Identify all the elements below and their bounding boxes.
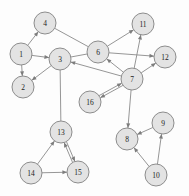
- arrowhead-14-to-13: [50, 141, 54, 146]
- arrowhead-7-to-12: [151, 63, 156, 67]
- node-circle-11[interactable]: [132, 13, 154, 35]
- graph-node-2[interactable]: 2: [12, 76, 34, 98]
- node-circle-1[interactable]: [10, 43, 32, 65]
- edge-3-6: [71, 54, 87, 57]
- edge-7-8: [128, 90, 131, 128]
- arrowhead-7-to-8: [126, 123, 130, 128]
- arrowhead-6-to-11: [129, 30, 134, 34]
- graph-node-6[interactable]: 6: [87, 41, 109, 63]
- node-circle-6[interactable]: [87, 41, 109, 63]
- node-circle-2[interactable]: [12, 76, 34, 98]
- graph-node-3[interactable]: 3: [49, 48, 71, 70]
- graph-node-13[interactable]: 13: [50, 121, 72, 143]
- node-circle-14[interactable]: [20, 162, 42, 184]
- arrowhead-7-to-11: [138, 35, 142, 40]
- arrowhead-1-to-2: [20, 71, 24, 76]
- node-circle-16[interactable]: [79, 91, 101, 113]
- edge-7-11: [134, 35, 141, 68]
- graph-diagram: 1234671112161314158910: [0, 0, 189, 196]
- edge-6-11: [107, 30, 133, 46]
- graph-node-16[interactable]: 16: [79, 91, 101, 113]
- graph-node-15[interactable]: 15: [67, 161, 89, 183]
- graph-node-7[interactable]: 7: [121, 68, 143, 90]
- node-circle-15[interactable]: [67, 161, 89, 183]
- node-circle-7[interactable]: [121, 68, 143, 90]
- arrowhead-6-to-12: [149, 54, 154, 58]
- arrowhead-3-to-2: [32, 76, 37, 80]
- node-circle-12[interactable]: [154, 46, 176, 68]
- node-circle-3[interactable]: [49, 48, 71, 70]
- graph-node-4[interactable]: 4: [34, 12, 56, 34]
- arrowhead-10-to-9: [159, 134, 163, 139]
- arrowhead-14-to-15: [62, 170, 67, 174]
- node-circle-9[interactable]: [152, 112, 174, 134]
- graph-node-10[interactable]: 10: [145, 164, 167, 186]
- node-circle-4[interactable]: [34, 12, 56, 34]
- graph-node-12[interactable]: 12: [154, 46, 176, 68]
- edge-3-13: [60, 70, 61, 121]
- graph-node-14[interactable]: 14: [20, 162, 42, 184]
- edge-6-12: [109, 53, 154, 56]
- graph-canvas: 1234671112161314158910: [0, 0, 189, 196]
- node-circle-13[interactable]: [50, 121, 72, 143]
- graph-node-8[interactable]: 8: [116, 128, 138, 150]
- node-circle-10[interactable]: [145, 164, 167, 186]
- graph-node-11[interactable]: 11: [132, 13, 154, 35]
- graph-node-9[interactable]: 9: [152, 112, 174, 134]
- arrowhead-1-to-3: [44, 55, 49, 59]
- edge-4-6: [55, 28, 89, 46]
- graph-node-1[interactable]: 1: [10, 43, 32, 65]
- node-layer: 1234671112161314158910: [10, 12, 176, 186]
- node-circle-8[interactable]: [116, 128, 138, 150]
